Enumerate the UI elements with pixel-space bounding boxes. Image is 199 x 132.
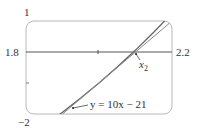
y-min-label: −2: [18, 117, 30, 128]
tangent-label: y = 10x − 21: [90, 99, 146, 110]
tangent-label-text: y = 10x − 21: [90, 98, 146, 110]
tangent-label-arrow: [73, 105, 88, 108]
x-max-label: 2.2: [176, 47, 190, 58]
x-min-label: 1.8: [5, 47, 19, 58]
y-max-label: 1: [24, 7, 30, 18]
x2-label: x2: [139, 59, 148, 74]
chart-plot: [0, 0, 199, 132]
x2-arrow-head: [135, 53, 137, 55]
x2-sub: 2: [144, 64, 148, 73]
tangent-arrow-head: [72, 107, 74, 109]
